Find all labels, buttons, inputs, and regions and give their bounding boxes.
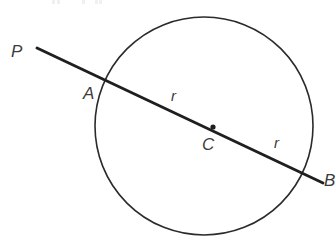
label-point-b: B xyxy=(324,172,335,189)
label-point-c: C xyxy=(202,136,214,153)
center-point-dot xyxy=(210,124,215,129)
label-radius-right: r xyxy=(274,135,279,150)
secant-line xyxy=(37,48,323,183)
label-point-p: P xyxy=(11,43,22,60)
geometry-canvas xyxy=(0,0,336,247)
geometry-figure: P A r C r B xyxy=(0,0,336,247)
label-radius-left: r xyxy=(171,88,176,103)
label-point-a: A xyxy=(83,85,94,102)
